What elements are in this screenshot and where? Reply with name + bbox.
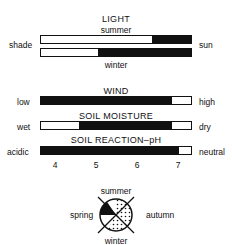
wind-title: WIND xyxy=(0,86,232,96)
ph-bar xyxy=(40,146,192,155)
moisture-fill xyxy=(79,122,172,129)
season-spring-label: spring xyxy=(70,210,93,220)
light-summer-bar xyxy=(40,35,192,44)
moisture-right-label: dry xyxy=(199,122,211,132)
season-pie-icon xyxy=(96,195,136,235)
light-right-label: sun xyxy=(199,40,213,50)
soil-reaction-title: SOIL REACTION–pH xyxy=(0,135,232,145)
season-winter-label: winter xyxy=(0,236,232,245)
wind-right-label: high xyxy=(199,97,215,107)
light-left-label: shade xyxy=(9,40,32,50)
ph-right-label: neutral xyxy=(199,147,225,157)
ph-tick-6: 6 xyxy=(135,160,140,170)
light-winter-bar xyxy=(40,48,192,57)
moisture-left-label: wet xyxy=(17,122,30,132)
wind-bar xyxy=(40,96,192,105)
ph-ticks: 4 5 6 7 xyxy=(0,160,232,172)
light-summer-label: summer xyxy=(0,25,232,35)
season-autumn-label: autumn xyxy=(146,210,174,220)
light-winter-fill xyxy=(98,49,191,56)
wind-left-label: low xyxy=(17,97,30,107)
light-title: LIGHT xyxy=(0,14,232,24)
ph-fill xyxy=(41,147,179,154)
soil-moisture-title: SOIL MOISTURE xyxy=(0,111,232,121)
ph-tick-7: 7 xyxy=(176,160,181,170)
light-winter-label: winter xyxy=(0,60,232,70)
ph-left-label: acidic xyxy=(7,147,29,157)
ph-tick-5: 5 xyxy=(94,160,99,170)
moisture-bar xyxy=(40,121,192,130)
ph-tick-4: 4 xyxy=(53,160,58,170)
light-summer-fill xyxy=(152,36,191,43)
wind-fill xyxy=(41,97,172,104)
